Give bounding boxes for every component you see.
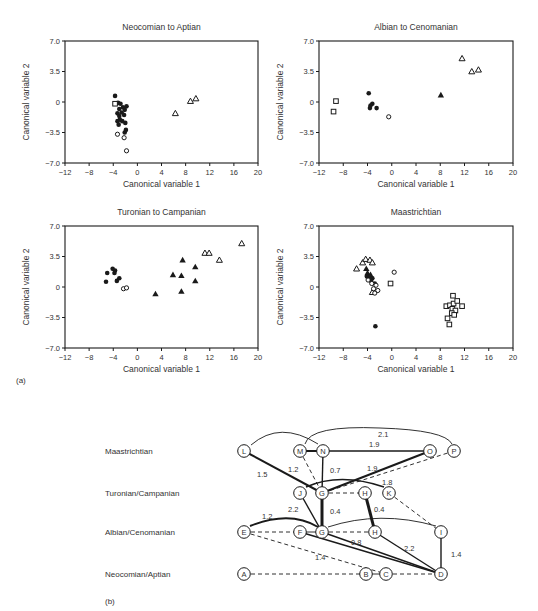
data-point-filled-triangle (192, 264, 198, 270)
series-filled-triangle (438, 92, 444, 98)
node-label: G (319, 489, 325, 498)
edge-distance-label: 1.8 (382, 478, 392, 487)
data-point-filled-circle (116, 122, 121, 127)
y-tick-label: −3.5 (299, 313, 314, 322)
edge-distance-label: 2.2 (288, 505, 298, 514)
data-point-filled-circle (368, 106, 373, 111)
x-tick-label: 20 (254, 353, 262, 362)
y-axis-label: Canonical variable 2 (275, 248, 285, 325)
node-P: P (448, 445, 461, 458)
data-point-filled-circle (123, 121, 128, 126)
data-point-filled-circle (374, 106, 379, 111)
node-O: O (424, 445, 437, 458)
y-tick-label: 0 (310, 283, 314, 292)
y-tick-label: 3.5 (304, 67, 314, 76)
y-tick-label: −3.5 (45, 128, 60, 137)
node-B: B (360, 568, 373, 581)
data-point-open-circle (115, 132, 119, 136)
edge-distance-label: 0.7 (330, 466, 340, 475)
data-point-open-square (388, 281, 393, 286)
data-point-open-circle (124, 149, 128, 153)
x-tick-label: 8 (438, 353, 442, 362)
data-point-open-circle (366, 278, 370, 282)
x-tick-label: 16 (485, 168, 493, 177)
data-point-filled-triangle (178, 288, 184, 294)
data-point-filled-circle (113, 94, 118, 99)
x-tick-label: −8 (339, 168, 348, 177)
x-axis-label: Canonical variable 1 (377, 179, 454, 189)
data-point-open-square (451, 293, 456, 298)
x-tick-label: 12 (460, 168, 468, 177)
data-point-open-triangle (172, 110, 178, 115)
scatter-panel: Maastrichtian−12−8−40481216207.03.50−3.5… (275, 207, 517, 374)
y-axis-label: Canonical variable 2 (21, 248, 31, 325)
node-N: N (317, 445, 330, 458)
plot-frame (65, 41, 258, 163)
y-tick-label: −3.5 (299, 128, 314, 137)
x-tick-label: −8 (85, 168, 94, 177)
y-tick-label: 3.5 (50, 252, 60, 261)
data-point-filled-circle (373, 324, 378, 329)
series-open-circle (121, 286, 128, 291)
data-point-filled-triangle (152, 291, 158, 297)
x-tick-label: 20 (254, 168, 262, 177)
network-edges (244, 428, 454, 574)
edge-distance-label: 0.4 (374, 505, 384, 514)
x-tick-label: 4 (414, 353, 418, 362)
data-point-filled-triangle (178, 272, 184, 278)
x-tick-label: 0 (390, 353, 394, 362)
data-point-open-triangle (459, 55, 465, 60)
node-label: O (427, 447, 433, 456)
edge-distance-label: 1.4 (315, 553, 325, 562)
series-filled-circle (366, 91, 378, 110)
node-M: M (294, 445, 307, 458)
scatter-panels: Neocomian to Aptian−12−8−40481216207.03.… (21, 22, 517, 374)
data-point-filled-triangle (192, 278, 198, 284)
series-filled-circle (104, 266, 122, 284)
series-open-square (388, 281, 464, 327)
node-label: K (386, 489, 391, 498)
part-a-label: (a) (16, 376, 26, 385)
node-E: E (238, 526, 251, 539)
series-filled-triangle (152, 257, 198, 297)
edge-distance-label: 1.4 (451, 550, 461, 559)
series-open-square (113, 101, 118, 106)
x-axis-label: Canonical variable 1 (377, 364, 454, 374)
data-point-open-square (460, 304, 465, 309)
data-point-filled-triangle (438, 92, 444, 98)
y-tick-label: 3.5 (304, 252, 314, 261)
edge-distance-label: 0.8 (351, 538, 361, 547)
edge-distance-label: 1.2 (288, 465, 298, 474)
y-tick-label: −7.0 (45, 159, 60, 168)
x-tick-label: 8 (184, 168, 188, 177)
node-label: M (297, 447, 303, 456)
data-point-open-square (331, 109, 336, 114)
y-tick-label: −3.5 (45, 313, 60, 322)
part-b-label: (b) (105, 597, 115, 606)
x-tick-label: 0 (135, 168, 139, 177)
y-tick-label: 7.0 (50, 222, 60, 231)
scatter-panel: Turonian to Campanian−12−8−40481216207.0… (21, 207, 262, 374)
data-point-open-square (452, 313, 457, 318)
data-point-open-circle (373, 291, 377, 295)
edge-distance-label: 2.1 (378, 430, 388, 439)
node-H1: H (359, 487, 372, 500)
data-point-open-circle (124, 286, 128, 290)
data-point-open-triangle (239, 240, 245, 245)
x-tick-label: −12 (313, 353, 326, 362)
series-open-triangle (172, 96, 199, 116)
x-tick-label: −8 (85, 353, 94, 362)
edge-distance-label: 0.4 (330, 507, 340, 516)
row-label: Maastrichtian (105, 447, 153, 456)
node-G1: G (316, 487, 329, 500)
network-arc-E-G2 (250, 518, 318, 527)
node-G2: G (316, 526, 329, 539)
y-tick-label: 7.0 (304, 37, 314, 46)
x-tick-label: −4 (363, 353, 372, 362)
x-tick-label: 8 (184, 353, 188, 362)
x-tick-label: 0 (135, 353, 139, 362)
data-point-filled-triangle (179, 257, 185, 263)
data-point-open-circle (371, 287, 375, 291)
scatter-panel: Neocomian to Aptian−12−8−40481216207.03.… (21, 22, 262, 189)
x-tick-label: 16 (230, 353, 238, 362)
